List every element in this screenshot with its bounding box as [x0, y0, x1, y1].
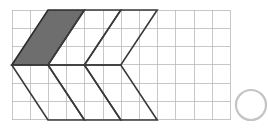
puzzle-canvas [0, 0, 268, 132]
figure-svg [0, 0, 268, 132]
shaded-parallelogram [12, 10, 85, 65]
answer-bubble[interactable] [236, 90, 266, 120]
